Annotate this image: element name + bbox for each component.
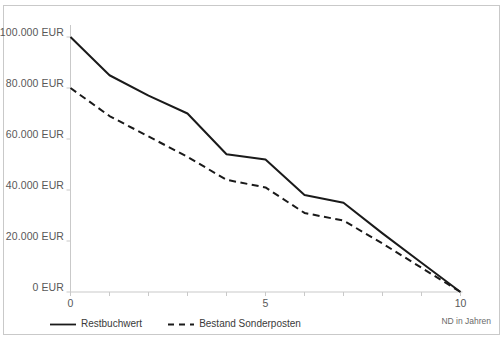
legend-label: Restbuchwert	[81, 319, 142, 329]
x-axis-tick-label: 5	[246, 297, 286, 309]
legend-item: Restbuchwert	[50, 319, 142, 329]
legend-line-swatch-dashed	[168, 321, 194, 328]
legend-label: Bestand Sonderposten	[199, 319, 301, 329]
x-axis-title: ND in Jahren	[441, 316, 491, 326]
legend-line-swatch-solid	[50, 321, 76, 328]
x-axis-tick-labels: 0510	[0, 0, 503, 338]
legend-item: Bestand Sonderposten	[168, 319, 301, 329]
chart-figure: 0 EUR20.000 EUR40.000 EUR60.000 EUR80.00…	[0, 0, 503, 338]
chart-legend: RestbuchwertBestand Sonderposten	[50, 317, 301, 331]
x-axis-tick-label: 0	[51, 297, 91, 309]
x-axis-tick-label: 10	[441, 297, 481, 309]
